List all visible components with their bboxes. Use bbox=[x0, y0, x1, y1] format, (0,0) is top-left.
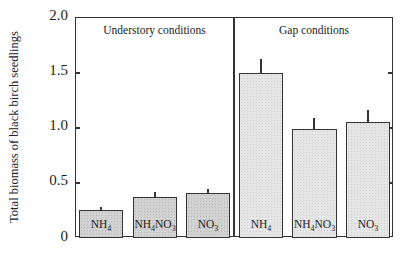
y-tick-label-0: 0 bbox=[28, 228, 68, 245]
bar-understory-no3: NO3 bbox=[186, 193, 230, 238]
bar-chart: Total biomass of black birch seedlings 2… bbox=[0, 0, 414, 256]
y-tick-label-1.0: 1.0 bbox=[28, 117, 68, 134]
right-tick-1.5 bbox=[388, 72, 393, 74]
y-tick-label-0.5: 0.5 bbox=[28, 172, 68, 189]
panel-divider bbox=[233, 17, 235, 237]
bar-label: NO3 bbox=[187, 218, 229, 233]
error-bar bbox=[260, 59, 262, 74]
y-tick-1.5 bbox=[75, 72, 80, 74]
y-tick-label-2.0: 2.0 bbox=[28, 7, 68, 24]
y-tick-0.5 bbox=[75, 182, 80, 184]
bar-understory-nh4: NH4 bbox=[79, 210, 123, 238]
bar-gap-no3: NO3 bbox=[346, 122, 390, 238]
y-tick-label-1.5: 1.5 bbox=[28, 62, 68, 79]
bar-gap-nh4no3: NH4NO3 bbox=[292, 129, 337, 238]
panel-title-gap: Gap conditions bbox=[235, 24, 393, 36]
bar-label: NH4 bbox=[80, 218, 122, 233]
y-axis-label: Total biomass of black birch seedlings bbox=[4, 17, 24, 237]
bar-label: NH4NO3 bbox=[134, 218, 176, 233]
bar-label: NO3 bbox=[347, 218, 389, 233]
bar-understory-nh4no3: NH4NO3 bbox=[133, 197, 177, 238]
bar-label: NH4NO3 bbox=[293, 218, 336, 233]
panel-title-understory: Understory conditions bbox=[76, 24, 233, 36]
bar-label: NH4 bbox=[240, 218, 282, 233]
y-tick-1.0 bbox=[75, 127, 80, 129]
bar-gap-nh4: NH4 bbox=[239, 73, 283, 238]
y-axis-title: Total biomass of black birch seedlings bbox=[7, 31, 22, 223]
